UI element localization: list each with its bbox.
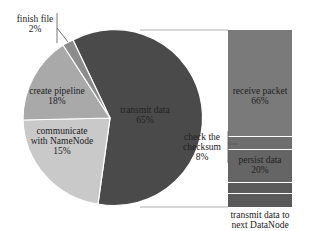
bar-segment-transmit-next-lower — [228, 194, 292, 207]
label-transmit-data-pct: 65% — [136, 115, 154, 125]
label-persist-data: persist data — [238, 155, 282, 165]
stacked-bar — [228, 30, 292, 207]
bar-segment-check-checksum — [228, 137, 292, 149]
label-receive-packet-pct: 66% — [251, 96, 269, 106]
label-receive-packet: receive packet — [233, 86, 288, 96]
label-transmit-next-line2: next DataNode — [231, 220, 288, 230]
label-transmit-next-line1: transmit data to — [230, 210, 289, 220]
bar-segment-transmit-next — [228, 183, 292, 193]
label-create-pipeline-pct: 18% — [48, 96, 66, 106]
label-transmit-data: transmit data — [120, 105, 170, 115]
label-communicate-line1: communicate — [36, 126, 87, 136]
pie-of-bar-chart: finish file 2% create pipeline 18% commu… — [0, 0, 323, 231]
label-create-pipeline: create pipeline — [29, 86, 85, 96]
bar-segment-receive-packet — [228, 30, 292, 136]
finish-file-leader — [57, 28, 68, 42]
label-checksum-pct: 8% — [196, 152, 209, 162]
label-finish-file-pct: 2% — [29, 24, 42, 34]
label-communicate-pct: 15% — [53, 146, 71, 156]
pie — [23, 30, 203, 206]
label-finish-file: finish file — [17, 14, 54, 24]
label-checksum-line1: check the — [184, 132, 220, 142]
label-persist-data-pct: 20% — [251, 165, 269, 175]
label-checksum-line2: checksum — [183, 142, 222, 152]
label-communicate-line2: with NameNode — [31, 136, 94, 146]
